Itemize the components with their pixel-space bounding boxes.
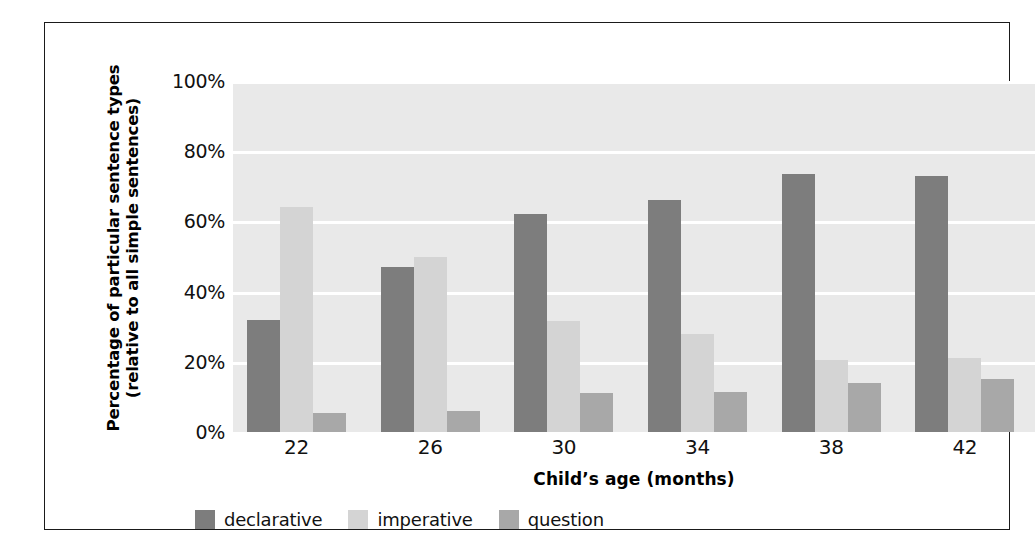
bar-imperative[interactable]	[681, 334, 714, 432]
bar-question[interactable]	[981, 379, 1014, 432]
y-axis-tick-label: 80%	[184, 140, 225, 162]
bar-declarative[interactable]	[381, 267, 414, 432]
legend-label: question	[528, 509, 604, 530]
bar-group	[247, 81, 346, 432]
legend-item[interactable]: question	[499, 509, 604, 530]
bar-imperative[interactable]	[948, 358, 981, 432]
bar-question[interactable]	[848, 383, 881, 432]
bar-group	[381, 81, 480, 432]
bar-declarative[interactable]	[782, 174, 815, 432]
legend-label: imperative	[377, 509, 472, 530]
bar-group	[915, 81, 1014, 432]
bar-question[interactable]	[580, 393, 613, 432]
x-axis-tick-label: 26	[418, 435, 443, 459]
x-axis-title: Child’s age (months)	[233, 469, 1035, 489]
y-axis-tick-label: 60%	[184, 210, 225, 232]
legend-swatch-imperative	[348, 510, 368, 529]
y-axis-title: Percentage of particular sentence types …	[93, 58, 153, 438]
bar-group	[782, 81, 881, 432]
bar-group	[514, 81, 613, 432]
y-axis-tick-label: 40%	[184, 281, 225, 303]
legend-item[interactable]: declarative	[195, 509, 322, 530]
bar-declarative[interactable]	[247, 320, 280, 432]
y-axis-tick-labels: 0%20%40%60%80%100%	[153, 81, 225, 432]
plot-area	[233, 81, 1035, 432]
x-axis-tick-label: 38	[819, 435, 844, 459]
legend-label: declarative	[224, 509, 322, 530]
y-axis-title-line-2: (relative to all simple sentences)	[123, 98, 142, 398]
x-axis-tick-labels: 222630343842	[233, 435, 1035, 465]
bars-layer	[233, 81, 1035, 432]
bar-declarative[interactable]	[915, 176, 948, 432]
bar-imperative[interactable]	[815, 360, 848, 432]
chart-legend: declarativeimperativequestion	[195, 509, 895, 530]
x-axis-tick-label: 30	[551, 435, 576, 459]
bar-imperative[interactable]	[414, 257, 447, 433]
bar-imperative[interactable]	[547, 321, 580, 432]
y-axis-tick-label: 100%	[172, 70, 225, 92]
x-axis-tick-label: 42	[952, 435, 977, 459]
legend-item[interactable]: imperative	[348, 509, 472, 530]
y-axis-tick-label: 20%	[184, 351, 225, 373]
y-axis-title-line-1: Percentage of particular sentence types	[104, 65, 123, 432]
bar-question[interactable]	[313, 413, 346, 432]
legend-swatch-declarative	[195, 510, 215, 529]
legend-swatch-question	[499, 510, 519, 529]
bar-group	[648, 81, 747, 432]
bar-declarative[interactable]	[648, 200, 681, 432]
x-axis-tick-label: 22	[284, 435, 309, 459]
bar-question[interactable]	[447, 411, 480, 432]
bar-imperative[interactable]	[280, 207, 313, 432]
bar-question[interactable]	[714, 392, 747, 432]
y-axis-tick-label: 0%	[195, 421, 225, 443]
bar-declarative[interactable]	[514, 214, 547, 432]
figure-frame: Percentage of particular sentence types …	[44, 22, 1010, 530]
x-axis-tick-label: 34	[685, 435, 710, 459]
